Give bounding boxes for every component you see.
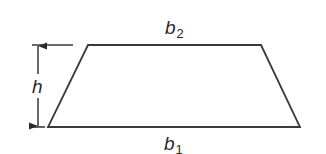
- top-base-symbol: b: [165, 17, 176, 38]
- top-base-subscript: 2: [177, 26, 184, 41]
- bottom-base-subscript: 1: [176, 142, 183, 154]
- trapezoid-diagram: [0, 0, 326, 154]
- height-symbol: h: [32, 76, 43, 97]
- top-base-label: b2: [165, 18, 184, 40]
- bottom-base-symbol: b: [164, 133, 175, 154]
- trapezoid-shape: [48, 45, 300, 127]
- bottom-base-label: b1: [164, 134, 183, 154]
- height-label: h: [32, 77, 43, 96]
